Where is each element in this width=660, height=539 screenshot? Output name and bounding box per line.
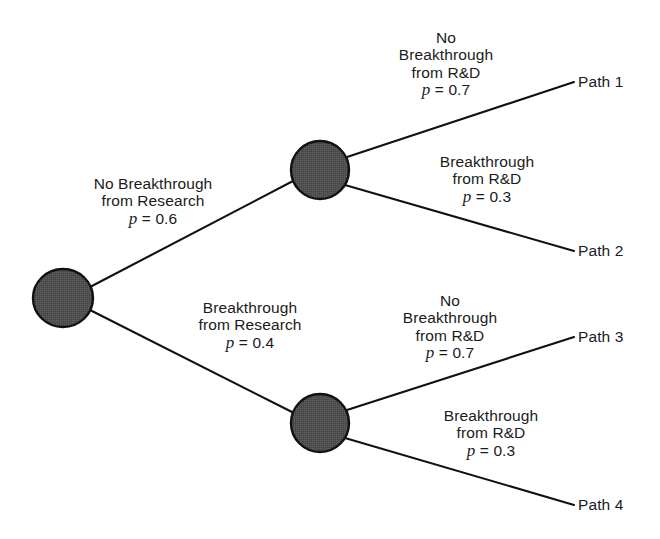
branch-label-line-1: No Breakthrough bbox=[0, 175, 306, 192]
branch-label-upper-path1: No Breakthrough from R&D p = 0.7 bbox=[346, 29, 546, 99]
branch-probability: p = 0.7 bbox=[350, 344, 550, 361]
probability-equals: = bbox=[239, 334, 248, 351]
probability-equals: = bbox=[476, 188, 485, 205]
branch-probability: p = 0.3 bbox=[391, 442, 591, 459]
branch-label-line-2: from R&D bbox=[391, 424, 591, 441]
branch-label-lower-path4: Breakthrough from R&D p = 0.3 bbox=[391, 407, 591, 459]
branch-probability: p = 0.3 bbox=[387, 188, 587, 205]
probability-symbol: p bbox=[426, 343, 435, 362]
probability-value: 0.7 bbox=[448, 81, 470, 98]
probability-value: 0.6 bbox=[155, 210, 177, 227]
branch-label-line-2: Breakthrough bbox=[350, 309, 550, 326]
probability-equals: = bbox=[439, 344, 448, 361]
probability-equals: = bbox=[480, 442, 489, 459]
branch-label-line-1: No bbox=[346, 29, 546, 46]
endpoint-label-path3: Path 3 bbox=[578, 328, 623, 345]
probability-symbol: p bbox=[467, 441, 476, 460]
branch-label-line-3: from R&D bbox=[346, 64, 546, 81]
branch-label-line-2: from R&D bbox=[387, 170, 587, 187]
branch-label-line-2: Breakthrough bbox=[346, 46, 546, 63]
branch-label-lower-path3: No Breakthrough from R&D p = 0.7 bbox=[350, 292, 550, 362]
branch-probability: p = 0.6 bbox=[0, 210, 306, 227]
probability-symbol: p bbox=[226, 333, 235, 352]
branch-label-line-1: No bbox=[350, 292, 550, 309]
probability-value: 0.3 bbox=[489, 188, 511, 205]
probability-symbol: p bbox=[463, 187, 472, 206]
probability-value: 0.7 bbox=[452, 344, 474, 361]
endpoint-label-path2: Path 2 bbox=[578, 242, 623, 259]
chance-node-root[interactable] bbox=[33, 269, 93, 327]
endpoint-label-path4: Path 4 bbox=[578, 496, 623, 513]
probability-symbol: p bbox=[129, 209, 138, 228]
branch-label-upper-path2: Breakthrough from R&D p = 0.3 bbox=[387, 153, 587, 205]
decision-tree-figure: No Breakthrough from Research p = 0.6 Br… bbox=[0, 0, 660, 539]
probability-equals: = bbox=[142, 210, 151, 227]
branch-label-line-1: Breakthrough bbox=[391, 407, 591, 424]
probability-value: 0.4 bbox=[252, 334, 274, 351]
chance-node-lower[interactable] bbox=[291, 394, 349, 452]
probability-value: 0.3 bbox=[493, 442, 515, 459]
branch-label-line-1: Breakthrough bbox=[387, 153, 587, 170]
probability-equals: = bbox=[435, 81, 444, 98]
branch-probability: p = 0.7 bbox=[346, 81, 546, 98]
branch-label-line-2: from Research bbox=[0, 192, 306, 209]
branch-label-line-3: from R&D bbox=[350, 327, 550, 344]
endpoint-label-path1: Path 1 bbox=[578, 73, 623, 90]
probability-symbol: p bbox=[422, 80, 431, 99]
branch-label-root-upper: No Breakthrough from Research p = 0.6 bbox=[0, 175, 306, 227]
